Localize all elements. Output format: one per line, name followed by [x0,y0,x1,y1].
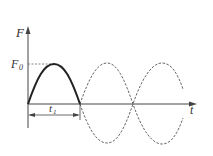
t1-left-arrow-icon [28,113,35,117]
solid-half-sine-curve [28,64,80,104]
f0-label-sub: 0 [19,63,23,72]
dashed-sine-positive-curve [80,63,183,143]
t1-label-sub: 1 [53,108,57,116]
y-axis-arrow-icon [26,26,31,34]
y-axis-label: F [15,25,25,40]
force-time-diagram: F t F 0 t 1 [0,0,213,156]
t1-right-arrow-icon [73,113,80,117]
f0-label: F [10,57,19,71]
